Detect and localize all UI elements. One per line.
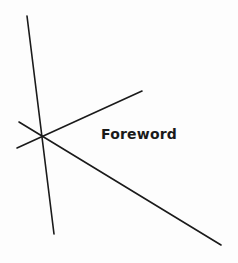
- near-vertical-line: [27, 16, 54, 234]
- page-title: Foreword: [101, 125, 177, 143]
- foreword-page: Foreword: [0, 0, 238, 263]
